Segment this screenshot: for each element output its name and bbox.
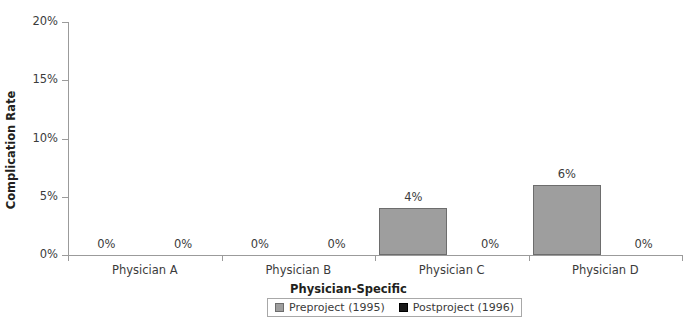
- bar-value-label: 0%: [307, 239, 367, 251]
- y-axis-tick-label: 15%: [6, 74, 58, 86]
- bar-value-label: 6%: [537, 169, 597, 181]
- x-axis-category-label: Physician C: [375, 263, 529, 277]
- bar-value-label: 4%: [383, 192, 443, 204]
- bar-value-label: 0%: [614, 239, 674, 251]
- y-axis-tick-label: 10%: [6, 133, 58, 145]
- x-axis-tick-mark: [222, 255, 223, 261]
- x-axis-category-label: Physician B: [222, 263, 376, 277]
- chart-legend: Preproject (1995)Postproject (1996): [267, 298, 522, 317]
- complication-rate-bar-chart: Complication Rate 20%15%10%5%0% 0%0%4%6%…: [0, 0, 697, 329]
- bar-value-label: 0%: [76, 239, 136, 251]
- x-axis-tick-mark: [375, 255, 376, 261]
- x-axis-tick-mark: [529, 255, 530, 261]
- bar-value-label: 0%: [153, 239, 213, 251]
- legend-item: Preproject (1995): [275, 302, 385, 313]
- y-axis-tick-label: 5%: [6, 191, 58, 203]
- x-axis-category-label: Physician A: [68, 263, 222, 277]
- legend-item-label: Preproject (1995): [289, 302, 385, 313]
- plot-area: 0%0%4%6%0%0%0%0%: [68, 22, 682, 255]
- bar-pre-2: [379, 208, 447, 255]
- x-axis-title: Physician-Specific: [0, 282, 697, 296]
- x-axis-tick-mark: [68, 255, 69, 261]
- black-swatch: [399, 303, 408, 312]
- legend-item: Postproject (1996): [399, 302, 514, 313]
- bar-value-label: 0%: [460, 239, 520, 251]
- legend-item-label: Postproject (1996): [413, 302, 514, 313]
- y-axis-tick-label: 20%: [6, 16, 58, 28]
- y-axis-tick-label: 0%: [6, 249, 58, 261]
- bar-value-label: 0%: [230, 239, 290, 251]
- x-axis-tick-mark: [682, 255, 683, 261]
- x-axis-category-label: Physician D: [529, 263, 683, 277]
- bar-pre-3: [533, 185, 601, 255]
- gray-swatch: [275, 303, 284, 312]
